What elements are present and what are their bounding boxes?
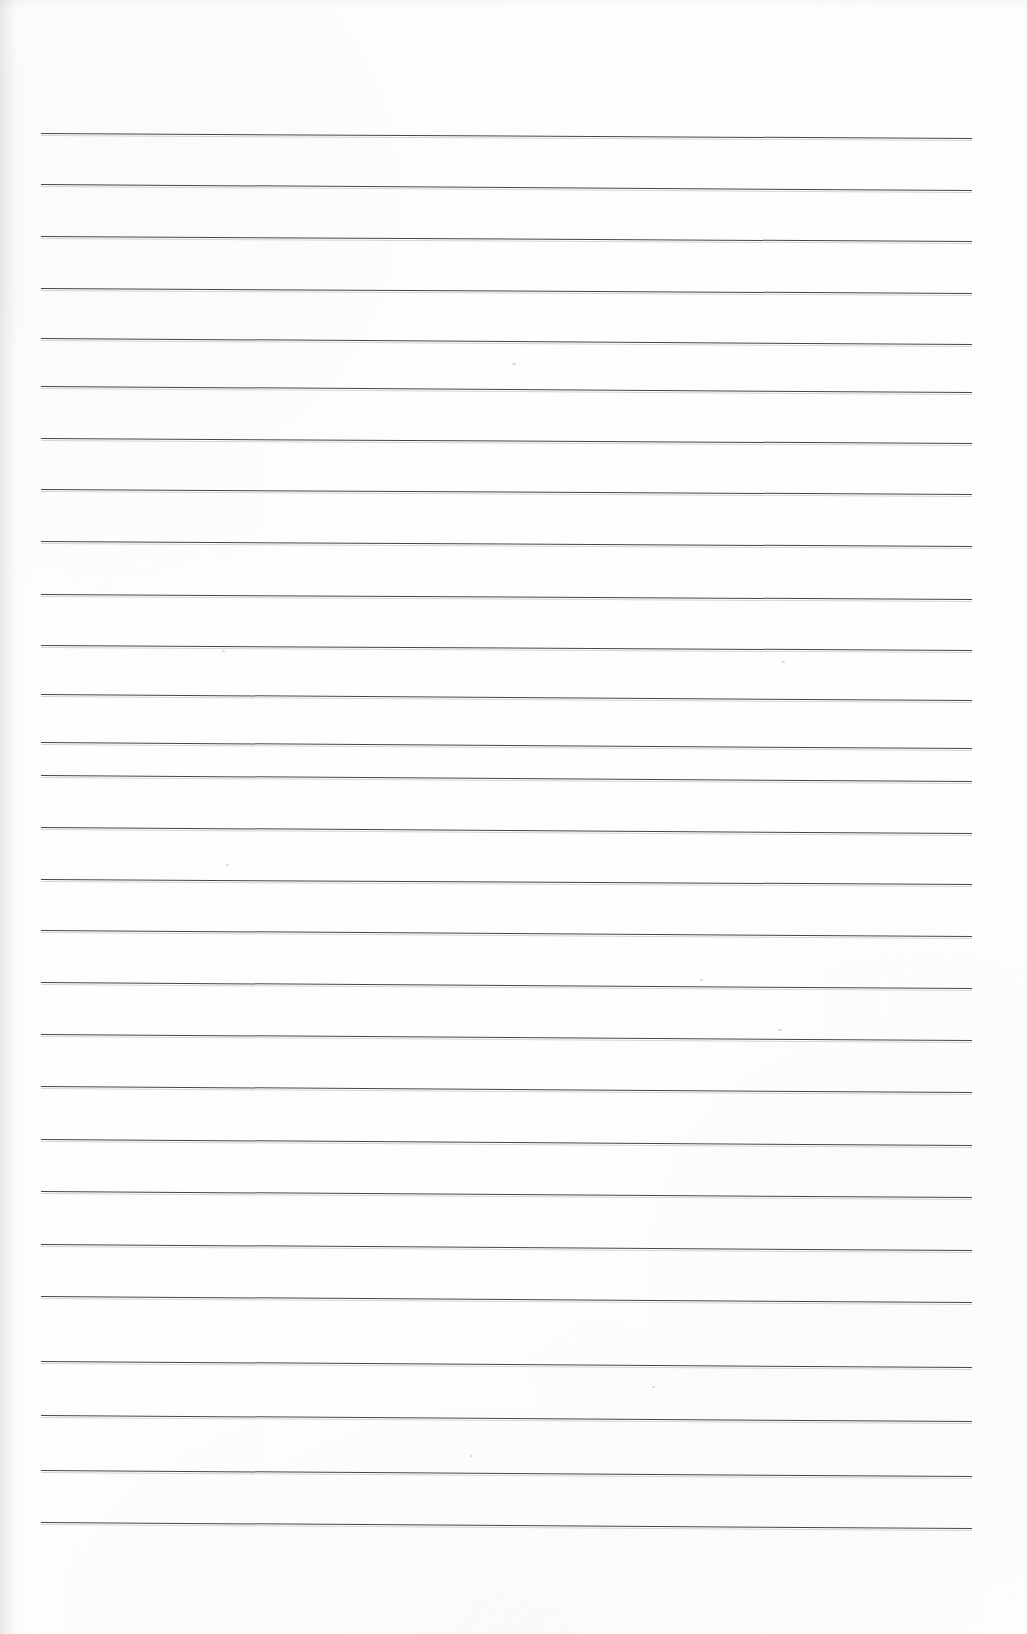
writing-area[interactable] (41, 133, 972, 1528)
scanned-paper-page (0, 0, 1027, 1634)
